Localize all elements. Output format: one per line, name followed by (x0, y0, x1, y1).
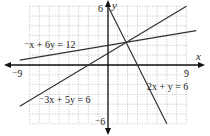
x-min-tick-label: ⁻9 (12, 68, 22, 79)
y-axis-up-arrow-icon (105, 0, 111, 7)
y-min-tick-label: ⁻6 (95, 116, 105, 127)
x-axis-right-arrow-icon (198, 62, 205, 68)
equation-label-1: ⁻x + 6y = 12 (24, 39, 76, 50)
y-axis (105, 0, 111, 135)
x-axis (4, 62, 205, 68)
y-axis-down-arrow-icon (105, 128, 111, 135)
x-max-tick-label: 9 (184, 68, 189, 79)
equation-label-2: 2x + y = 6 (147, 81, 188, 92)
equation-label-3: ⁻3x + 5y = 6 (39, 94, 91, 105)
x-axis-label: x (195, 50, 201, 62)
coordinate-plane-chart: y x ⁻9 9 6 ⁻6 ⁻x + 6y = 12 2x + y = 6 ⁻3… (0, 0, 210, 136)
x-axis-left-arrow-icon (4, 62, 11, 68)
y-max-tick-label: 6 (98, 3, 103, 14)
y-axis-label: y (111, 0, 117, 11)
